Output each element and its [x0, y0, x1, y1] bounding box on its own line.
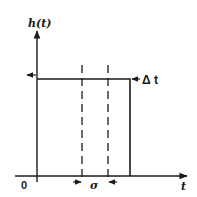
- delta-t-label: Δ t: [142, 73, 158, 87]
- x-axis-label: t: [181, 180, 186, 193]
- origin-label: 0: [21, 179, 27, 191]
- pulse-curve: [37, 79, 130, 176]
- sigma-label: σ: [90, 179, 99, 192]
- diagram-svg: h(t) t 0 σ Δ t: [0, 0, 197, 197]
- pulse-diagram: h(t) t 0 σ Δ t: [0, 0, 197, 197]
- y-axis-label: h(t): [28, 17, 52, 30]
